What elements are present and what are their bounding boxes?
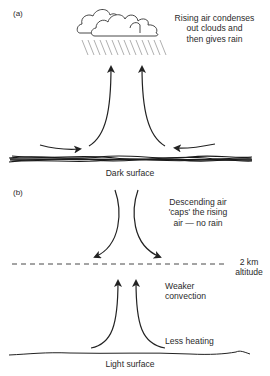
rising-arrow-left (89, 67, 111, 146)
cloud-caption: Rising air condenses out clouds and then… (162, 13, 267, 44)
descending-caption: Descending air 'caps' the rising air — n… (152, 197, 244, 228)
heating-label: Less heating (165, 336, 214, 346)
panel-a-label: (a) (13, 9, 23, 19)
rising-arrow-right (142, 67, 165, 146)
convection-diagram: (a) Rising air condenses out clouds and … (0, 0, 270, 376)
light-surface (9, 351, 250, 355)
weak-rising-arrow-right (136, 281, 165, 348)
dark-surface-label: Dark surface (95, 168, 165, 178)
weak-rising-arrow-left (91, 281, 118, 348)
cloud-icon (77, 9, 158, 36)
rain-icon (82, 40, 166, 55)
inflow-arrow-left (40, 145, 80, 149)
convection-label: Weaker convection (165, 281, 206, 302)
panel-b-label: (b) (13, 188, 23, 198)
dark-surface (9, 156, 252, 162)
light-surface-label: Light surface (95, 359, 165, 369)
descending-arrow-left (95, 190, 119, 257)
inflow-arrow-right (175, 144, 215, 148)
altitude-label: 2 km altitude (228, 257, 270, 278)
